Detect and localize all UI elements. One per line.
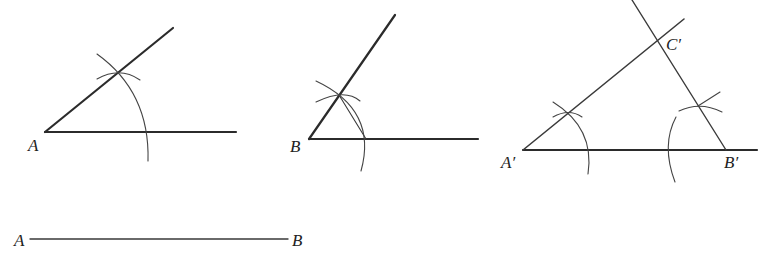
- label-segment-start: A: [13, 231, 25, 250]
- label-c-prime: C′: [666, 35, 681, 54]
- figure-angle-a: A: [27, 28, 236, 161]
- ray-oblique-b: [309, 15, 395, 139]
- label-segment-end: B: [292, 231, 303, 250]
- arc-tick-b-prime: [698, 92, 720, 106]
- given-segment-ab: A B: [13, 231, 303, 250]
- figure-angle-b: B: [290, 15, 478, 171]
- chord-b: [339, 95, 366, 139]
- ray-oblique-a: [45, 28, 173, 132]
- label-b-prime: B′: [724, 153, 738, 172]
- label-vertex-b: B: [290, 137, 301, 156]
- figure-triangle: A′ B′ C′: [500, 0, 757, 182]
- label-vertex-a: A: [27, 136, 39, 155]
- label-a-prime: A′: [500, 153, 515, 172]
- side-a-prime-c-prime: [523, 19, 684, 150]
- geometry-construction-diagram: A B A′ B′ C′ A B: [0, 0, 759, 270]
